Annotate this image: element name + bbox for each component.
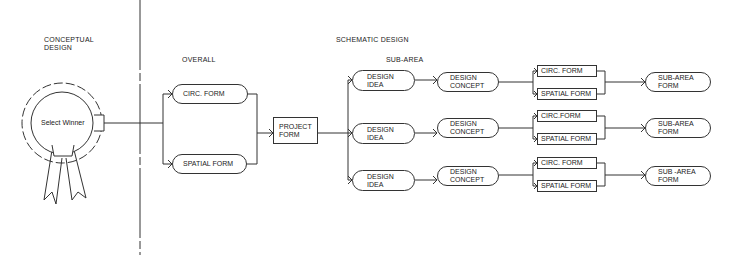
- design-idea-node-1[interactable]: DESIGN IDEA: [352, 70, 415, 91]
- node-label: CIRC.FORM: [541, 112, 581, 120]
- node-label: DESIGN IDEA: [367, 73, 394, 89]
- sub-area-label: SUB-AREA: [386, 56, 423, 64]
- node-label: CIRC. FORM: [183, 90, 225, 98]
- spatial-form-box-1[interactable]: SPATIAL FORM: [537, 88, 597, 100]
- spatial-form-box-2[interactable]: SPATIAL FORM: [537, 133, 597, 145]
- circ-form-box-1[interactable]: CIRC. FORM: [537, 65, 597, 77]
- overall-circ-form-node[interactable]: CIRC. FORM: [172, 84, 248, 104]
- sub-area-form-node-3[interactable]: SUB -AREA FORM: [645, 166, 711, 186]
- node-label: DESIGN IDEA: [367, 126, 394, 142]
- design-concept-node-1[interactable]: DESIGN CONCEPT: [437, 72, 499, 92]
- node-label: DESIGN CONCEPT: [450, 120, 484, 136]
- node-label: SUB-AREA FORM: [658, 74, 694, 90]
- spatial-form-box-3[interactable]: SPATIAL FORM: [537, 180, 597, 192]
- node-label: PROJECT FORM: [279, 123, 312, 139]
- node-label: DESIGN CONCEPT: [450, 168, 484, 184]
- schematic-design-label: SCHEMATIC DESIGN: [336, 36, 409, 44]
- sub-area-form-node-2[interactable]: SUB-AREA FORM: [645, 118, 711, 138]
- node-label: SUB-AREA FORM: [658, 120, 694, 136]
- node-label: CIRC. FORM: [541, 159, 583, 167]
- design-idea-node-3[interactable]: DESIGN IDEA: [352, 170, 415, 191]
- select-winner-label: Select Winner: [41, 119, 85, 127]
- node-label: DESIGN CONCEPT: [450, 74, 484, 90]
- node-label: SPATIAL FORM: [541, 90, 591, 98]
- design-concept-node-3[interactable]: DESIGN CONCEPT: [437, 166, 499, 186]
- node-label: SPATIAL FORM: [541, 182, 591, 190]
- node-label: DESIGN IDEA: [367, 173, 394, 189]
- project-form-node[interactable]: PROJECT FORM: [273, 117, 318, 144]
- node-label: SUB -AREA FORM: [658, 168, 696, 184]
- node-label: SPATIAL FORM: [541, 135, 591, 143]
- rosette-icon: [22, 83, 104, 204]
- circ-form-box-2[interactable]: CIRC.FORM: [537, 110, 597, 122]
- design-idea-node-2[interactable]: DESIGN IDEA: [352, 123, 415, 144]
- overall-spatial-form-node[interactable]: SPATIAL FORM: [172, 154, 247, 174]
- sub-area-form-node-1[interactable]: SUB-AREA FORM: [645, 72, 711, 92]
- node-label: CIRC. FORM: [541, 67, 583, 75]
- circ-form-box-3[interactable]: CIRC. FORM: [537, 157, 597, 169]
- overall-label: OVERALL: [182, 56, 216, 64]
- node-label: SPATIAL FORM: [183, 160, 233, 168]
- design-concept-node-2[interactable]: DESIGN CONCEPT: [437, 118, 499, 138]
- conceptual-design-label: CONCEPTUAL DESIGN: [44, 36, 94, 52]
